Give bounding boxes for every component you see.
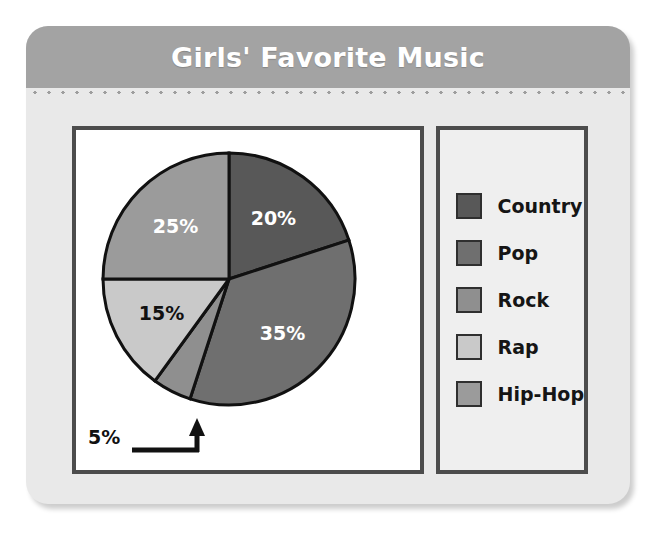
legend-panel: Country Pop Rock Rap Hip-Hop (436, 126, 588, 474)
legend-label: Hip-Hop (498, 383, 584, 405)
legend-item-rap[interactable]: Rap (456, 324, 584, 371)
legend-label: Pop (498, 242, 539, 264)
panels-container: 20%35%15%25% 5% Country (72, 126, 588, 474)
legend-item-hip-hop[interactable]: Hip-Hop (456, 371, 584, 418)
callout-leader-arrow-icon (86, 416, 286, 464)
pie-slice-label-pop: 35% (260, 322, 305, 344)
legend-item-pop[interactable]: Pop (456, 230, 584, 277)
dotted-divider-dots (26, 90, 630, 95)
legend-item-rock[interactable]: Rock (456, 277, 584, 324)
pie-slice-label-hip-hop: 25% (153, 215, 198, 237)
legend-label: Rock (498, 289, 550, 311)
chart-card: Girls' Favorite Music 20%35%15%25% 5% (26, 26, 630, 504)
card-header: Girls' Favorite Music (26, 26, 630, 88)
pie-chart-panel: 20%35%15%25% 5% (72, 126, 424, 474)
slice-callout-rock: 5% (86, 416, 286, 464)
dotted-divider (26, 88, 630, 97)
legend-label: Rap (498, 336, 539, 358)
page-title: Girls' Favorite Music (171, 42, 485, 73)
legend-label: Country (498, 195, 583, 217)
legend-item-country[interactable]: Country (456, 183, 584, 230)
legend-swatch-icon (456, 240, 482, 266)
pie-chart: 20%35%15%25% (98, 148, 360, 410)
screenshot-root: Girls' Favorite Music 20%35%15%25% 5% (0, 0, 654, 533)
pie-slice-label-rap: 15% (139, 302, 184, 324)
legend-swatch-icon (456, 334, 482, 360)
legend-swatch-icon (456, 193, 482, 219)
pie-chart-svg: 20%35%15%25% (98, 148, 360, 410)
legend-swatch-icon (456, 287, 482, 313)
pie-slice-label-country: 20% (251, 207, 296, 229)
legend-swatch-icon (456, 381, 482, 407)
